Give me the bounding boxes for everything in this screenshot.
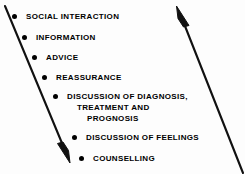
list-item-label: SOCIAL INTERACTION: [26, 11, 119, 22]
bullet-icon: [22, 35, 27, 40]
list-item-line: DISCUSSION OF DIAGNOSIS,: [67, 91, 188, 102]
bullet-icon: [32, 55, 37, 60]
bullet-icon: [12, 14, 17, 19]
list-item: DISCUSSION OF DIAGNOSIS, TREATMENT AND P…: [53, 91, 188, 124]
list-item-line: TREATMENT AND: [77, 102, 188, 113]
list-item: ADVICE: [32, 52, 78, 63]
list-item-line: PROGNOSIS: [87, 113, 188, 124]
list-item-label: ADVICE: [46, 52, 78, 63]
list-item: SOCIAL INTERACTION: [12, 11, 119, 22]
left-downward-arrow: [5, 6, 70, 163]
right-upward-arrow: [177, 6, 244, 173]
left-arrow-head: [58, 142, 71, 163]
list-item: DISCUSSION OF FEELINGS: [72, 132, 199, 143]
bullet-icon: [42, 75, 47, 80]
list-item-label: DISCUSSION OF FEELINGS: [86, 132, 199, 143]
list-item: INFORMATION: [22, 32, 96, 43]
right-arrow-shaft: [183, 21, 243, 173]
arrow-layer: [0, 0, 245, 174]
list-item-label: REASSURANCE: [56, 72, 122, 83]
counselling-continuum-figure: SOCIAL INTERACTION INFORMATION ADVICE RE…: [0, 0, 245, 174]
list-item-label: INFORMATION: [36, 32, 96, 43]
list-item: REASSURANCE: [42, 72, 122, 83]
right-arrow-head: [177, 6, 190, 27]
bullet-icon: [72, 135, 77, 140]
list-item: COUNSELLING: [79, 153, 155, 164]
bullet-icon: [79, 156, 84, 161]
list-item-label: COUNSELLING: [93, 153, 155, 164]
bullet-icon: [53, 94, 58, 99]
list-item-label: DISCUSSION OF DIAGNOSIS, TREATMENT AND P…: [67, 91, 188, 124]
